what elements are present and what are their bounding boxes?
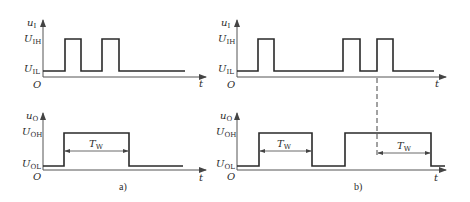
panel-a-input-waveform: uI UIH UIL O t bbox=[24, 17, 206, 90]
origin-label: O bbox=[227, 79, 235, 90]
y-axis-label: uO bbox=[220, 110, 232, 123]
output-signal bbox=[43, 133, 183, 166]
panel-b-output-waveform: TW TW uO UOH UOL O t b) bbox=[216, 110, 446, 193]
level-label-low: UOL bbox=[216, 158, 235, 171]
level-label-high: UOH bbox=[22, 126, 42, 139]
panel-caption: b) bbox=[354, 181, 362, 193]
y-axis-label: uI bbox=[27, 17, 36, 30]
input-signal bbox=[237, 39, 434, 71]
t-axis-label: t bbox=[199, 78, 204, 89]
origin-label: O bbox=[33, 79, 41, 90]
level-label-low: UOL bbox=[22, 158, 41, 171]
t-axis-label: t bbox=[199, 172, 204, 183]
origin-label: O bbox=[227, 171, 235, 182]
t-axis-label: t bbox=[434, 172, 439, 183]
y-axis-label: uI bbox=[221, 17, 230, 30]
level-label-high: UIH bbox=[24, 33, 41, 46]
input-signal bbox=[43, 39, 185, 71]
panel-a-output-waveform: TW uO UOH UOL O t a) bbox=[22, 110, 206, 193]
output-signal bbox=[237, 133, 445, 166]
level-label-low: UIL bbox=[218, 63, 234, 76]
y-axis-label: uO bbox=[26, 110, 38, 123]
level-label-low: UIL bbox=[24, 63, 40, 76]
t-axis-label: t bbox=[435, 78, 440, 89]
tw-label-1: TW bbox=[277, 138, 292, 151]
level-label-high: UOH bbox=[216, 126, 236, 139]
monostable-timing-diagram: uI UIH UIL O t TW uO UOH UOL O t a) uI U… bbox=[0, 0, 470, 202]
tw-label: TW bbox=[89, 138, 104, 151]
origin-label: O bbox=[33, 171, 41, 182]
panel-b-input-waveform: uI UIH UIL O t bbox=[218, 17, 446, 90]
panel-caption: a) bbox=[119, 181, 127, 193]
tw-label-2: TW bbox=[397, 140, 412, 153]
level-label-high: UIH bbox=[218, 33, 235, 46]
